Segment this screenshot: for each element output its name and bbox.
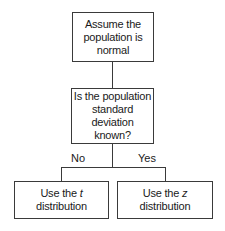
node-text: standard	[72, 103, 153, 116]
node-text: distribution	[140, 200, 191, 212]
node-text: deviation known?	[72, 116, 153, 142]
branch-line	[61, 167, 166, 168]
node-text: Use the	[143, 187, 182, 199]
node-text: Is the population	[72, 90, 153, 103]
node-text: normal	[83, 44, 142, 57]
connector-line	[112, 62, 113, 88]
variable-z: z	[182, 187, 187, 199]
t-distribution-node: Use the t distribution	[14, 181, 109, 219]
variable-t: t	[80, 187, 83, 199]
yes-label: Yes	[138, 152, 156, 165]
node-text: population is	[83, 31, 142, 44]
connector-line	[112, 144, 113, 167]
z-distribution-node: Use the z distribution	[117, 181, 213, 219]
node-text: Use the	[40, 187, 79, 199]
no-label: No	[71, 152, 85, 165]
std-dev-known-node: Is the population standard deviation kno…	[71, 88, 154, 144]
connector-line	[61, 167, 62, 181]
node-text: Assume the	[83, 18, 142, 31]
assume-normal-node: Assume the population is normal	[72, 12, 154, 62]
node-text: distribution	[36, 200, 87, 212]
connector-line	[165, 167, 166, 181]
